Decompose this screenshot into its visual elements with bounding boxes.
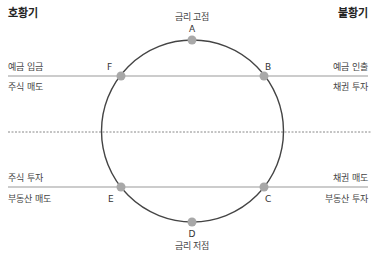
point-b-label: B — [265, 63, 271, 72]
realestate-invest-label: 부동산 투자 — [325, 195, 368, 204]
economic-cycle-diagram — [0, 0, 376, 264]
point-e-label: E — [108, 195, 114, 204]
point-b-marker — [260, 72, 269, 81]
point-d-caption: 금리 저점 — [175, 242, 210, 251]
sell-realestate-label: 부동산 매도 — [8, 195, 51, 204]
cycle-circle — [102, 40, 284, 222]
point-a-marker — [188, 36, 197, 45]
point-c-marker — [260, 183, 269, 192]
sell-bonds-label: 채권 매도 — [333, 174, 368, 183]
point-a-caption: 금리 고점 — [175, 13, 210, 22]
deposit-out-label: 예금 인출 — [333, 63, 368, 72]
point-d-label: D — [189, 230, 196, 239]
stock-invest-label: 주식 투자 — [8, 174, 43, 183]
sell-stocks-label: 주식 매도 — [8, 83, 43, 92]
point-d-marker — [188, 218, 197, 227]
point-e-marker — [117, 183, 126, 192]
boom-header: 호황기 — [8, 8, 38, 19]
point-f-marker — [117, 72, 126, 81]
deposit-in-label: 예금 입금 — [8, 63, 43, 72]
recession-header: 불황기 — [338, 8, 368, 19]
point-f-label: F — [107, 63, 112, 72]
bond-invest-label: 채권 투자 — [333, 83, 368, 92]
point-a-label: A — [189, 25, 195, 34]
point-c-label: C — [265, 195, 271, 204]
